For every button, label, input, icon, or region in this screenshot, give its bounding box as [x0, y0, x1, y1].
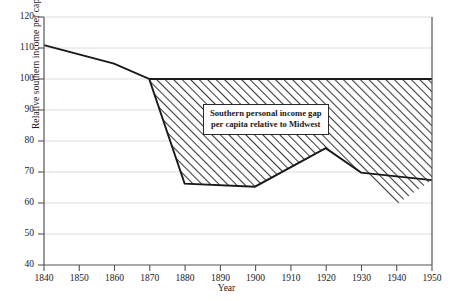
- chart-figure: 120 110 100 90 80 70 60 50 40 1840 1850 …: [0, 0, 453, 301]
- x-axis-label: Year: [0, 283, 453, 293]
- x-tick-label: 1930: [342, 273, 382, 283]
- x-tick-label: 1940: [377, 273, 417, 283]
- x-tick-label: 1910: [271, 273, 311, 283]
- x-tick-marks: [44, 265, 432, 271]
- x-tick-label: 1890: [200, 273, 240, 283]
- y-tick-label: 100: [4, 73, 34, 83]
- y-tick-label: 50: [4, 228, 34, 238]
- y-tick-label: 110: [4, 42, 34, 52]
- x-tick-label: 1920: [306, 273, 346, 283]
- x-tick-label: 1850: [59, 273, 99, 283]
- x-tick-label: 1860: [95, 273, 135, 283]
- y-tick-label: 40: [4, 259, 34, 269]
- x-tick-label: 1870: [130, 273, 170, 283]
- gap-annotation-line-2: per capita relative to Midwest: [210, 119, 322, 130]
- y-tick-label: 120: [4, 11, 34, 21]
- y-tick-label: 60: [4, 197, 34, 207]
- x-tick-label: 1950: [412, 273, 452, 283]
- y-axis-label: Relative southern income per capita: [31, 0, 45, 159]
- gap-annotation-line-1: Southern personal income gap: [210, 108, 322, 119]
- gap-annotation: Southern personal income gap per capita …: [203, 104, 329, 135]
- x-tick-label: 1900: [236, 273, 276, 283]
- x-tick-label: 1880: [165, 273, 205, 283]
- chart-plot-area: [0, 0, 453, 301]
- y-tick-label: 90: [4, 104, 34, 114]
- x-tick-label: 1840: [24, 273, 64, 283]
- y-tick-label: 70: [4, 166, 34, 176]
- y-tick-label: 80: [4, 135, 34, 145]
